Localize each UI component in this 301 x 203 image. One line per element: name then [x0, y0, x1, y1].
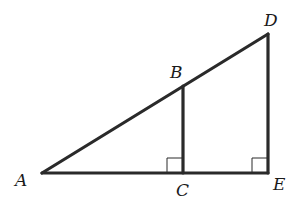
label-b: B — [169, 62, 183, 82]
label-d: D — [263, 10, 278, 30]
right-angle-mark-e — [252, 158, 267, 173]
label-a: A — [13, 170, 27, 190]
segment-ad — [42, 34, 268, 173]
geometry-diagram: A B C D E — [0, 0, 301, 203]
right-angle-mark-c — [167, 158, 182, 173]
label-e: E — [272, 174, 286, 194]
label-c: C — [176, 180, 189, 200]
